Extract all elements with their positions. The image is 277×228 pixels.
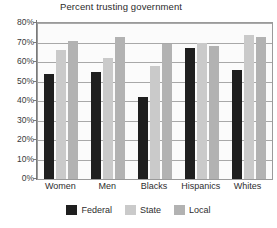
bar-women-state — [56, 50, 66, 179]
legend-label: State — [140, 205, 161, 215]
x-axis-tick-label: Women — [45, 181, 76, 191]
chart-figure: Percent trusting government 0%10%20%30%4… — [0, 0, 277, 228]
bar-men-local — [115, 37, 125, 179]
bar-men-state — [103, 58, 113, 179]
x-axis-tick-label: Blacks — [141, 181, 168, 191]
bar-women-local — [68, 41, 78, 179]
y-axis-tick-label: 10% — [2, 154, 34, 164]
x-axis-tick-label: Men — [98, 181, 116, 191]
y-axis-tick-label: 30% — [2, 115, 34, 125]
chart-title: Percent trusting government — [60, 1, 182, 12]
legend-swatch-icon — [125, 205, 136, 215]
bar-men-federal — [91, 72, 101, 179]
y-axis-tick-label: 20% — [2, 134, 34, 144]
legend-item-federal: Federal — [66, 205, 112, 215]
bar-whites-local — [256, 37, 266, 179]
y-axis-tick-label: 40% — [2, 95, 34, 105]
legend-item-local: Local — [174, 205, 211, 215]
plot-area — [37, 22, 273, 180]
legend-swatch-icon — [174, 205, 185, 215]
x-axis-tick-label: Whites — [234, 181, 262, 191]
bar-hispanics-local — [209, 46, 219, 179]
legend-swatch-icon — [66, 205, 77, 215]
y-axis: 0%10%20%30%40%50%60%70%80% — [0, 0, 34, 228]
bar-hispanics-state — [197, 43, 207, 180]
bar-blacks-state — [150, 66, 160, 179]
legend-item-state: State — [125, 205, 161, 215]
bar-whites-state — [244, 35, 254, 179]
bar-hispanics-federal — [185, 48, 195, 179]
legend-label: Federal — [81, 205, 112, 215]
y-axis-tick-label: 70% — [2, 37, 34, 47]
y-axis-tick-label: 50% — [2, 76, 34, 86]
bar-whites-federal — [232, 70, 242, 179]
chart-legend: FederalStateLocal — [0, 205, 277, 215]
bar-blacks-federal — [138, 97, 148, 179]
bar-women-federal — [44, 74, 54, 179]
y-axis-tick-label: 60% — [2, 56, 34, 66]
bar-blacks-local — [162, 44, 172, 179]
gridline — [38, 23, 272, 24]
legend-label: Local — [189, 205, 211, 215]
y-axis-tick-label: 80% — [2, 17, 34, 27]
y-axis-tick-label: 0% — [2, 173, 34, 183]
x-axis-tick-label: Hispanics — [181, 181, 220, 191]
